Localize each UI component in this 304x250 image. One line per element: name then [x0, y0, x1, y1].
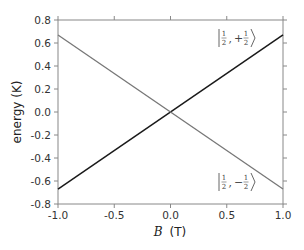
- x-axis-symbol: B: [153, 225, 163, 239]
- x-tick-label: -1.0: [48, 209, 69, 221]
- svg-text:2: 2: [244, 39, 248, 47]
- x-axis-unit: (T): [169, 225, 186, 239]
- y-tick-label: -0.2: [31, 129, 52, 141]
- y-tick-label: -0.8: [31, 198, 52, 210]
- x-tick-label: 0.0: [162, 209, 179, 221]
- svg-text:,: ,: [229, 32, 233, 45]
- ket-plus-half-label: 12,+12: [219, 29, 255, 47]
- ket-minus-half-label: 12,−12: [219, 173, 255, 191]
- energy-vs-field-chart: 0.80.60.40.20.0-0.2-0.4-0.6-0.8-1.0-0.50…: [0, 0, 304, 250]
- x-tick-label: 0.5: [218, 209, 235, 221]
- x-axis-label: B (T): [153, 225, 186, 239]
- y-tick-label: -0.6: [31, 175, 52, 187]
- y-axis-label: energy (K): [10, 81, 24, 144]
- svg-text:+: +: [234, 32, 243, 45]
- y-tick-label: 0.2: [34, 83, 51, 95]
- svg-text:1: 1: [222, 30, 226, 38]
- y-tick-label: 0.8: [34, 14, 51, 26]
- svg-text:,: ,: [229, 176, 233, 189]
- svg-text:2: 2: [222, 183, 226, 191]
- svg-text:1: 1: [244, 30, 248, 38]
- y-tick-label: 0.4: [34, 60, 51, 72]
- svg-text:2: 2: [244, 183, 248, 191]
- svg-text:1: 1: [244, 174, 248, 182]
- svg-text:2: 2: [222, 39, 226, 47]
- svg-text:1: 1: [222, 174, 226, 182]
- y-tick-label: 0.6: [34, 37, 51, 49]
- y-tick-label: 0.0: [34, 106, 51, 118]
- x-tick-label: 1.0: [275, 209, 292, 221]
- svg-text:−: −: [234, 176, 243, 189]
- x-tick-label: -0.5: [104, 209, 125, 221]
- data-lines: [58, 35, 283, 189]
- y-tick-label: -0.4: [31, 152, 52, 164]
